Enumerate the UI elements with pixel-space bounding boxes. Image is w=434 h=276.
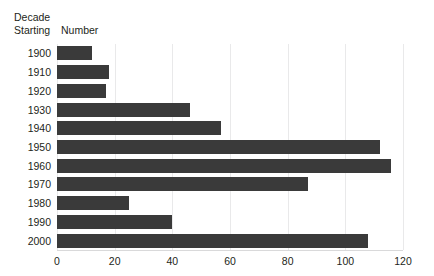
y-tick-1910: 1910 xyxy=(5,65,51,79)
bar-1990 xyxy=(57,215,172,229)
y-tick-1950: 1950 xyxy=(5,140,51,154)
y-tick-1920: 1920 xyxy=(5,84,51,98)
x-axis-line xyxy=(57,250,403,251)
bar-chart: Decade Starting Number 19001910192019301… xyxy=(0,0,434,276)
bar-row xyxy=(57,65,403,79)
bar-1940 xyxy=(57,121,221,135)
y-axis-tick-labels: 1900191019201930194019501960197019801990… xyxy=(0,44,51,250)
bar-row xyxy=(57,234,403,248)
gridline-120 xyxy=(403,44,404,250)
x-tick-0: 0 xyxy=(54,254,60,268)
y-tick-1960: 1960 xyxy=(5,159,51,173)
number-column-header: Number xyxy=(61,24,98,37)
bar-1910 xyxy=(57,65,109,79)
bar-row xyxy=(57,177,403,191)
bar-1980 xyxy=(57,196,129,210)
x-tick-120: 120 xyxy=(394,254,412,268)
y-tick-2000: 2000 xyxy=(5,234,51,248)
bar-row xyxy=(57,84,403,98)
bar-2000 xyxy=(57,234,368,248)
bar-1970 xyxy=(57,177,308,191)
x-tick-20: 20 xyxy=(109,254,121,268)
x-tick-80: 80 xyxy=(282,254,294,268)
x-tick-100: 100 xyxy=(337,254,355,268)
x-tick-40: 40 xyxy=(166,254,178,268)
bar-row xyxy=(57,121,403,135)
y-tick-1980: 1980 xyxy=(5,196,51,210)
bar-row xyxy=(57,215,403,229)
y-tick-1970: 1970 xyxy=(5,177,51,191)
bar-row xyxy=(57,46,403,60)
x-tick-60: 60 xyxy=(224,254,236,268)
bar-1920 xyxy=(57,84,106,98)
bar-row xyxy=(57,140,403,154)
bar-1930 xyxy=(57,103,190,117)
bar-row xyxy=(57,103,403,117)
plot-area xyxy=(57,44,403,250)
y-tick-1930: 1930 xyxy=(5,103,51,117)
bar-row xyxy=(57,196,403,210)
y-tick-1940: 1940 xyxy=(5,121,51,135)
bar-row xyxy=(57,159,403,173)
bar-1960 xyxy=(57,159,391,173)
y-tick-1990: 1990 xyxy=(5,215,51,229)
bar-1900 xyxy=(57,46,92,60)
y-tick-1900: 1900 xyxy=(5,46,51,60)
x-axis-tick-labels: 020406080100120 xyxy=(0,254,434,272)
bar-1950 xyxy=(57,140,380,154)
